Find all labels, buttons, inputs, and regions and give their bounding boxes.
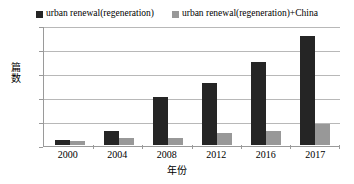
chart-legend: urban renewal(regeneration) urban renewa…	[0, 6, 354, 22]
y-axis-tick-mark	[39, 51, 43, 52]
bar-2017-series-1	[315, 124, 330, 145]
bar-2000-series-0	[55, 140, 70, 145]
x-axis-tick-labels: 200020042008201220162017	[43, 150, 340, 160]
bar-2008-series-0	[153, 97, 168, 145]
bar-2004-series-0	[104, 131, 119, 145]
x-axis-tick-label: 2000	[43, 150, 93, 160]
legend-label-series-0: urban renewal(regeneration)	[46, 9, 154, 19]
x-axis-title: 年份	[0, 166, 354, 176]
x-axis-tick-label: 2004	[93, 150, 143, 160]
legend-label-series-1: urban renewal(regeneration)+China	[182, 9, 318, 19]
bar-2016-series-1	[266, 131, 281, 145]
bar-2012-series-1	[217, 133, 232, 145]
bar-group	[193, 27, 242, 145]
y-axis-tick-mark	[39, 99, 43, 100]
legend-swatch-icon-series-1	[172, 11, 179, 18]
bar-group	[291, 27, 340, 145]
x-axis-tick-mark	[339, 145, 340, 149]
legend-entry-series-0: urban renewal(regeneration)	[36, 9, 154, 19]
x-axis-tick-label: 2008	[142, 150, 192, 160]
bar-group	[143, 27, 192, 145]
legend-swatch-icon-series-0	[36, 11, 43, 18]
x-axis-tick-mark	[142, 145, 143, 149]
plot-area	[43, 27, 340, 147]
x-axis-tick-mark	[290, 145, 291, 149]
plot-area-wrapper: 50403020100	[43, 27, 340, 147]
x-axis-tick-label: 2016	[241, 150, 291, 160]
x-axis-tick-mark	[93, 145, 94, 149]
bar-group	[242, 27, 291, 145]
bar-2012-series-0	[202, 83, 217, 145]
y-axis-tick-mark	[39, 27, 43, 28]
bar-2004-series-1	[119, 138, 134, 145]
x-axis-tick-label: 2017	[291, 150, 341, 160]
bar-group	[45, 27, 94, 145]
bar-2008-series-1	[168, 138, 183, 145]
x-axis-tick-mark	[241, 145, 242, 149]
legend-entry-series-1: urban renewal(regeneration)+China	[172, 9, 318, 19]
bar-chart: urban renewal(regeneration) urban renewa…	[0, 0, 354, 184]
y-axis-tick-mark	[39, 123, 43, 124]
bar-2017-series-0	[300, 36, 315, 145]
y-axis-tick-mark	[39, 75, 43, 76]
y-axis-tick-mark	[39, 147, 43, 148]
x-axis-tick-mark	[192, 145, 193, 149]
bar-2016-series-0	[251, 62, 266, 145]
x-axis-tick-label: 2012	[192, 150, 242, 160]
bar-group	[94, 27, 143, 145]
y-axis-title: 篇数	[9, 62, 23, 84]
bar-groups	[45, 27, 340, 145]
bar-2000-series-1	[70, 141, 85, 145]
